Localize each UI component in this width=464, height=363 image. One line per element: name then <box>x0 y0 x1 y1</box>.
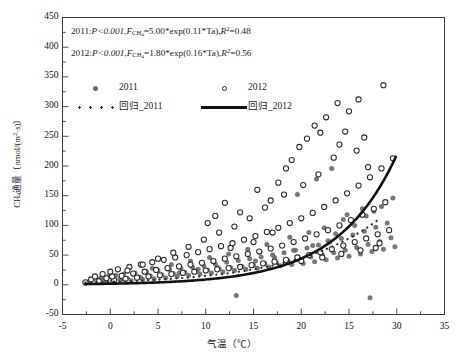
data-point <box>331 155 336 160</box>
data-point <box>262 205 267 210</box>
x-tick-label: -5 <box>43 321 83 331</box>
data-point <box>201 237 206 242</box>
y-tick-label: 350 <box>17 70 59 80</box>
legend-item-fit-2012[interactable]: 回归_2012 <box>200 97 292 116</box>
x-tick-label: 20 <box>281 321 321 331</box>
data-point <box>259 254 264 259</box>
dashed-line-icon <box>71 97 119 116</box>
data-point <box>345 212 350 217</box>
data-point <box>335 256 340 261</box>
data-point <box>283 257 288 262</box>
data-point <box>264 229 269 234</box>
x-tick-label: 10 <box>186 321 226 331</box>
data-point <box>253 259 258 264</box>
open-circle-icon <box>200 78 248 97</box>
data-point <box>335 100 340 105</box>
data-point <box>213 213 218 218</box>
data-point <box>165 266 170 271</box>
data-point <box>289 157 294 162</box>
data-point <box>238 210 243 215</box>
data-point <box>232 224 237 229</box>
data-point <box>297 144 302 149</box>
data-point <box>211 258 216 263</box>
data-point <box>316 172 321 177</box>
y-axis-title-text: CH4通量〔nmol/(m2·s)〕 <box>12 115 22 208</box>
equation-annotations: 2011:P<0.001,FCH4=5.00*exp(0.11*Ta),R2=0… <box>71 21 251 65</box>
data-point <box>339 251 344 256</box>
data-point <box>358 248 363 253</box>
data-point <box>310 243 315 248</box>
data-point <box>276 180 281 185</box>
data-point <box>276 225 281 230</box>
data-point <box>226 266 231 271</box>
data-point <box>196 250 201 255</box>
legend-row-markers: 2011 2012 <box>71 78 321 97</box>
legend-label-fit-2011: 回归_2011 <box>119 97 162 116</box>
data-point <box>367 175 372 180</box>
data-point <box>264 242 269 247</box>
data-point <box>199 260 204 265</box>
data-point <box>306 230 311 235</box>
data-point <box>104 276 109 281</box>
data-point <box>245 251 250 256</box>
data-point <box>226 251 231 256</box>
data-point <box>205 220 210 225</box>
series-2011 <box>87 166 398 300</box>
data-point <box>222 256 227 261</box>
x-tick-label: 15 <box>329 321 369 331</box>
legend-row-fits: 回归_2011 回归_2012 <box>71 97 321 116</box>
data-point <box>352 239 357 244</box>
legend-label-2012: 2012 <box>248 78 267 97</box>
data-point <box>390 196 395 201</box>
legend-label-2011: 2011 <box>119 78 138 97</box>
data-point <box>272 259 277 264</box>
data-point <box>188 262 193 267</box>
data-point <box>186 244 191 249</box>
data-point <box>184 253 189 258</box>
data-point <box>110 274 115 279</box>
data-point <box>304 245 309 250</box>
data-point <box>207 247 212 252</box>
y-tick-label: 50 <box>17 249 59 259</box>
data-point <box>347 254 352 259</box>
data-point <box>368 295 373 300</box>
data-point <box>373 245 378 250</box>
x-tick-label: 35 <box>425 321 464 331</box>
legend-item-2012[interactable]: 2012 <box>200 78 267 97</box>
legend-item-2011[interactable]: 2011 <box>71 78 138 97</box>
x-tick-label: 0 <box>90 321 130 331</box>
data-point <box>155 256 160 261</box>
data-point <box>387 228 392 233</box>
data-point <box>257 249 262 254</box>
data-point <box>379 204 384 209</box>
data-point <box>341 217 346 222</box>
data-point <box>339 236 344 241</box>
data-point <box>366 165 371 170</box>
data-point <box>222 200 227 205</box>
legend-item-fit-2011[interactable]: 回归_2011 <box>71 97 162 116</box>
y-axis-title: CH4通量〔nmol/(m2·s)〕 <box>10 76 22 246</box>
data-point <box>373 225 378 230</box>
data-point <box>176 264 181 269</box>
data-point <box>234 254 239 259</box>
data-point <box>171 250 176 255</box>
data-point <box>192 269 197 274</box>
data-point <box>238 264 243 269</box>
data-point <box>302 236 307 241</box>
figure-caption <box>0 354 464 363</box>
data-point <box>215 267 220 272</box>
chart-legend: 2011 2012 回归_2011 回归_2012 <box>71 78 321 116</box>
data-point <box>314 232 319 237</box>
data-point <box>270 230 275 235</box>
data-point <box>346 109 351 114</box>
data-point <box>316 243 321 248</box>
data-point <box>371 206 376 211</box>
filled-circle-icon <box>71 78 119 97</box>
data-point <box>337 223 342 228</box>
data-point <box>169 272 174 277</box>
x-tick-label: 30 <box>377 321 417 331</box>
data-point <box>281 192 286 197</box>
data-point <box>341 243 346 248</box>
data-point <box>249 263 254 268</box>
data-point <box>325 228 330 233</box>
